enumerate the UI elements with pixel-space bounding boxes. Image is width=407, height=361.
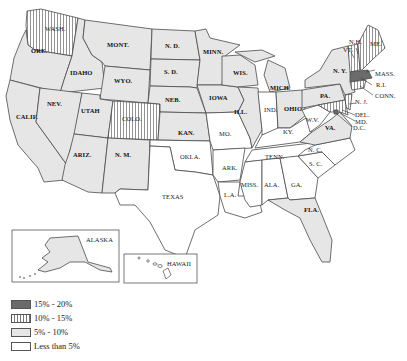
label-sc: S. C. xyxy=(309,160,322,167)
label-idaho: IDAHO xyxy=(70,69,93,76)
label-kan: KAN. xyxy=(178,129,194,136)
label-sd: S. D. xyxy=(164,68,178,75)
label-ariz: ARIZ. xyxy=(73,151,91,158)
state-florida xyxy=(268,198,332,262)
label-wv: W.V. xyxy=(306,116,319,123)
legend-item-high: 15% - 20% xyxy=(11,297,80,311)
legend-swatch-high xyxy=(11,300,31,309)
label-mass: MASS. xyxy=(375,70,395,77)
label-nc: N. C. xyxy=(308,146,322,153)
state-wyoming xyxy=(100,66,150,103)
label-nm: N. M. xyxy=(115,151,131,158)
label-nj: N. J. xyxy=(355,98,368,105)
label-ohio: OHIO xyxy=(284,105,302,112)
label-ky: KY. xyxy=(283,128,293,135)
legend-swatch-mid-high xyxy=(11,314,31,323)
label-va: VA. xyxy=(325,124,335,131)
label-vt: VT. xyxy=(343,46,353,53)
label-ala: ALA. xyxy=(264,181,279,188)
label-ark: ARK. xyxy=(222,164,238,171)
label-alaska: ALASKA xyxy=(86,236,113,243)
label-hawaii: HAWAII xyxy=(167,260,191,267)
label-miss: MISS. xyxy=(241,181,258,188)
label-wis: WIS. xyxy=(233,69,248,76)
label-mich: MICH. xyxy=(270,84,291,91)
legend: 15% - 20% 10% - 15% 5% - 10% Less than 5… xyxy=(11,297,80,353)
label-okla: OKLA. xyxy=(180,153,200,160)
label-nev: NEV. xyxy=(47,100,62,107)
legend-swatch-mid xyxy=(11,328,31,337)
label-ind: IND. xyxy=(264,106,278,113)
label-me: ME. xyxy=(370,40,382,47)
legend-item-mid-high: 10% - 15% xyxy=(11,311,80,325)
label-del: DEL. xyxy=(355,111,370,118)
label-utah: UTAH xyxy=(81,107,100,114)
label-tenn: TENN. xyxy=(265,153,284,160)
legend-label-mid: 5% - 10% xyxy=(34,327,68,337)
label-colo: COLO. xyxy=(122,115,142,122)
label-ill: ILL. xyxy=(234,108,247,115)
label-texas: TEXAS xyxy=(162,193,183,200)
label-conn: CONN. xyxy=(375,92,396,99)
state-massachusetts xyxy=(350,70,372,82)
label-dc: D.C. xyxy=(353,124,366,131)
label-ga: GA. xyxy=(291,181,302,188)
label-calif: CALIF. xyxy=(16,113,38,120)
label-ore: ORE. xyxy=(31,47,47,54)
label-mo: MO. xyxy=(219,130,231,137)
label-neb: NEB. xyxy=(165,96,180,103)
label-la: L.A. xyxy=(224,191,236,198)
state-new-mexico xyxy=(102,138,150,193)
label-ny: N. Y. xyxy=(333,67,347,74)
label-fla: FLA. xyxy=(304,206,319,213)
legend-item-mid: 5% - 10% xyxy=(11,325,80,339)
label-mont: MONT. xyxy=(107,41,129,48)
legend-label-low: Less than 5% xyxy=(34,341,80,351)
hawaii-inset-frame xyxy=(124,254,197,283)
label-pa: PA. xyxy=(320,92,330,99)
legend-label-high: 15% - 20% xyxy=(34,299,72,309)
label-minn: MINN. xyxy=(203,48,223,55)
label-wash: WASH. xyxy=(45,25,66,32)
label-ri: R.I. xyxy=(376,81,386,88)
label-nh: N.H. xyxy=(349,38,362,45)
state-dc xyxy=(334,110,338,114)
label-iowa: IOWA xyxy=(209,94,227,101)
state-kansas xyxy=(158,112,210,141)
legend-swatch-low xyxy=(11,342,31,351)
label-nd: N. D. xyxy=(165,42,180,49)
legend-item-low: Less than 5% xyxy=(11,339,80,353)
legend-label-mid-high: 10% - 15% xyxy=(34,313,72,323)
label-wyo: WYO. xyxy=(114,77,132,84)
state-maine xyxy=(358,25,385,70)
